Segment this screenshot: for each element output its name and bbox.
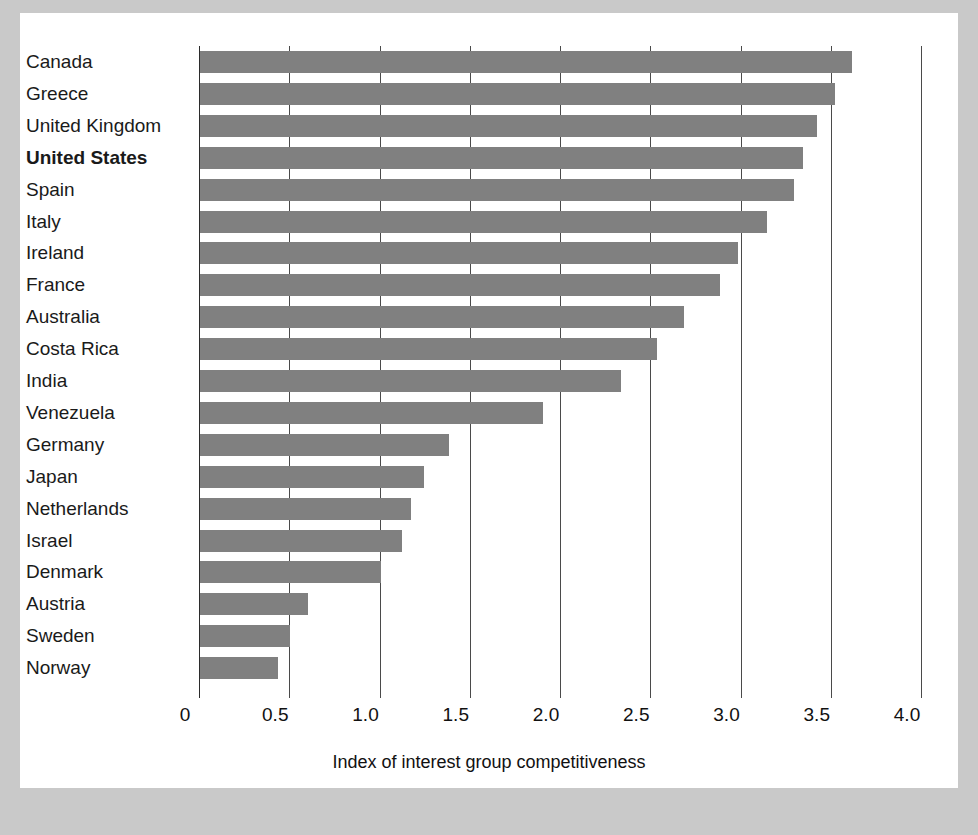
bar-denmark (200, 561, 381, 583)
gridline-3.0 (741, 46, 742, 698)
gridline-2.5 (650, 46, 651, 698)
bar-italy (200, 211, 767, 233)
bar-sweden (200, 625, 290, 647)
y-axis-label-united-states: United States (26, 148, 191, 167)
bar-chart-plot-area: CanadaGreeceUnited KingdomUnited StatesS… (20, 13, 958, 788)
y-axis-label-japan: Japan (26, 467, 191, 486)
y-axis-label-ireland: Ireland (26, 243, 191, 262)
bar-united-states (200, 147, 803, 169)
bar-germany (200, 434, 449, 456)
y-axis-label-australia: Australia (26, 307, 191, 326)
y-axis-label-canada: Canada (26, 52, 191, 71)
bar-japan (200, 466, 424, 488)
bar-united-kingdom (200, 115, 817, 137)
x-tick-label-0: 0 (180, 704, 191, 726)
bar-ireland (200, 242, 738, 264)
y-axis-label-israel: Israel (26, 531, 191, 550)
figure-frame: CanadaGreeceUnited KingdomUnited StatesS… (0, 0, 978, 835)
bar-india (200, 370, 621, 392)
y-axis-label-spain: Spain (26, 180, 191, 199)
bar-australia (200, 306, 684, 328)
bar-spain (200, 179, 794, 201)
y-axis-label-italy: Italy (26, 212, 191, 231)
y-axis-label-germany: Germany (26, 435, 191, 454)
bar-norway (200, 657, 278, 679)
gridline-3.5 (831, 46, 832, 698)
y-axis-label-sweden: Sweden (26, 626, 191, 645)
y-axis-label-greece: Greece (26, 84, 191, 103)
y-axis-label-india: India (26, 371, 191, 390)
x-tick-label-4.0: 4.0 (894, 704, 920, 726)
bar-costa-rica (200, 338, 657, 360)
y-axis-label-costa-rica: Costa Rica (26, 339, 191, 358)
bar-netherlands (200, 498, 411, 520)
x-tick-label-2.5: 2.5 (623, 704, 649, 726)
bar-austria (200, 593, 308, 615)
y-axis-label-venezuela: Venezuela (26, 403, 191, 422)
y-axis-label-norway: Norway (26, 658, 191, 677)
y-axis-label-france: France (26, 275, 191, 294)
x-tick-label-1.5: 1.5 (443, 704, 469, 726)
bar-israel (200, 530, 402, 552)
x-tick-label-2.0: 2.0 (533, 704, 559, 726)
bar-canada (200, 51, 852, 73)
y-axis-label-united-kingdom: United Kingdom (26, 116, 191, 135)
x-tick-label-1.0: 1.0 (352, 704, 378, 726)
y-axis-label-denmark: Denmark (26, 562, 191, 581)
y-axis-label-netherlands: Netherlands (26, 499, 191, 518)
x-tick-label-0.5: 0.5 (262, 704, 288, 726)
bar-france (200, 274, 720, 296)
gridline-4.0 (921, 46, 922, 698)
x-axis-title: Index of interest group competitiveness (20, 752, 958, 773)
x-tick-label-3.5: 3.5 (804, 704, 830, 726)
y-axis-label-austria: Austria (26, 594, 191, 613)
x-tick-label-3.0: 3.0 (713, 704, 739, 726)
bar-greece (200, 83, 835, 105)
chart-panel: CanadaGreeceUnited KingdomUnited StatesS… (20, 13, 958, 788)
bar-venezuela (200, 402, 543, 424)
